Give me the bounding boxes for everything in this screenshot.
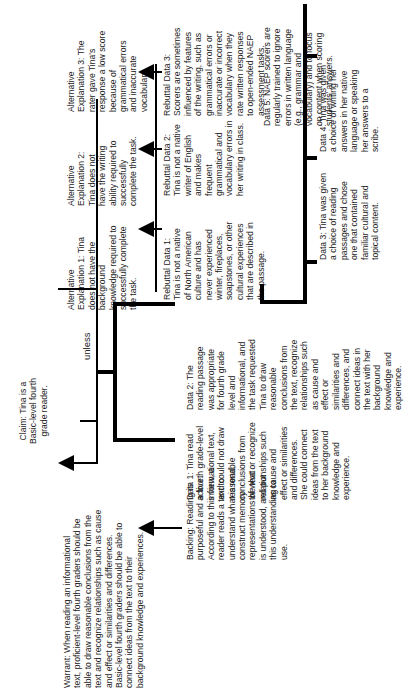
counter-data-tick-4 (303, 156, 317, 160)
rebuttal-data-3: Rebuttal Data 3: Scorers are sometimes i… (162, 0, 266, 116)
argument-diagram: Claim: Tina is a Basic-level fourth grad… (0, 0, 420, 692)
rebuttal-data-1: Rebuttal Data 1: Tina is not a native of… (162, 190, 266, 300)
data-bracket-stem (98, 370, 115, 374)
warrant-connector-line (80, 420, 98, 422)
alternatives-horizontal-line (155, 64, 157, 292)
data-1-text: Data 1: Tina read a fourth grade-level i… (185, 400, 352, 500)
rebuttal-2-line (150, 148, 162, 150)
claim-text: Claim: Tina is a Basic-level fourth grad… (18, 356, 49, 466)
data-bracket-left (113, 438, 175, 442)
counter-data-bar (303, 4, 307, 304)
backing-connector-line (150, 527, 182, 529)
claim-arrow-icon (58, 455, 74, 471)
rebuttal-1-line (150, 228, 162, 230)
data-2-text: Data 2: The reading passage was appropri… (185, 310, 404, 410)
data-3-text: Data 3: Tina was given a choice of readi… (318, 140, 380, 260)
backing-arrow-icon (138, 520, 154, 536)
unless-vertical-line (58, 288, 98, 290)
data-5-text: Data 5: NAEP scorers are regularly train… (262, 0, 335, 126)
claim-stem-line (73, 462, 98, 464)
data-bracket-right (113, 302, 175, 306)
counter-data-tick-3 (303, 260, 317, 264)
claim-to-unless-line (96, 99, 98, 464)
alternative-explanation-2: Alternative Explanation 2: Tina does not… (66, 106, 139, 206)
counter-data-stem (260, 300, 307, 304)
alternative-explanation-1: Alternative Explanation 1: Tina does not… (66, 200, 139, 310)
rebuttal-3-line (150, 71, 162, 73)
counter-data-tick-5 (303, 54, 317, 58)
alternative-explanation-3: Alternative Explanation 3: The rater gav… (66, 2, 149, 112)
counter-data-top (260, 284, 264, 304)
warrant-text: Warrant: When reading an informational t… (62, 418, 145, 688)
unless-label: unless (82, 333, 92, 360)
